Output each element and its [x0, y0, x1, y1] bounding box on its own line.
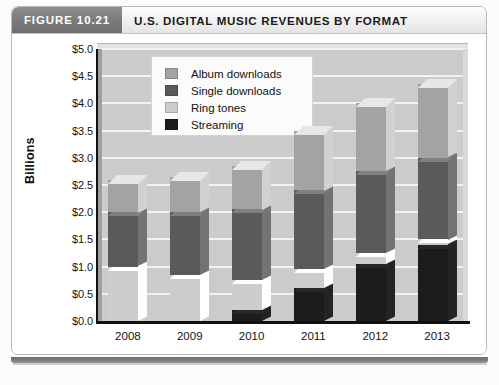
bar-segment-2012-streaming: [356, 264, 386, 321]
y-tick-label: $2.5: [47, 179, 93, 191]
panel-shadow-bar-light: [13, 363, 487, 365]
x-tick-label-2012: 2012: [362, 330, 388, 342]
bar-segment-front: [294, 288, 324, 321]
y-axis-title: Billions: [23, 137, 37, 184]
bar-segment-front: [170, 212, 200, 275]
figure-title: U.S. DIGITAL MUSIC REVENUES BY FORMAT: [134, 7, 408, 33]
bar-segment-2013-single-downloads: [418, 158, 448, 240]
bar-segment-front: [418, 84, 448, 157]
plot-top-cap-edge: [97, 43, 468, 44]
bar-segment-2008-single-downloads: [108, 212, 138, 266]
y-tick-label: $3.0: [47, 152, 93, 164]
gridline: [97, 184, 468, 186]
bar-segment-2009-single-downloads: [170, 212, 200, 275]
gridline: [97, 293, 468, 295]
figure-number-tab: FIGURE 10.21: [12, 7, 122, 33]
x-tick-label-2011: 2011: [301, 330, 326, 342]
y-tick-label: $0.5: [47, 288, 93, 300]
bar-segment-front: [108, 212, 138, 266]
bar-segment-front: [232, 209, 262, 280]
bar-segment-front: [294, 190, 324, 269]
y-axis-line: [96, 49, 98, 324]
bar-segment-2013-album-downloads: [418, 84, 448, 157]
figure-header: FIGURE 10.21 U.S. DIGITAL MUSIC REVENUES…: [12, 7, 487, 34]
bar-segment-side: [386, 167, 395, 253]
x-tick-label-2009: 2009: [177, 330, 203, 342]
y-tick-label: $1.0: [47, 261, 93, 273]
x-tick-label-2008: 2008: [115, 330, 141, 342]
bar-segment-2008-ring-tones: [108, 267, 138, 321]
y-tick-label: $2.0: [47, 206, 93, 218]
figure-panel: FIGURE 10.21 U.S. DIGITAL MUSIC REVENUES…: [11, 6, 487, 355]
bar-segment-side: [138, 208, 147, 267]
bar-segment-2010-ring-tones: [232, 280, 262, 310]
bar-segment-2009-ring-tones: [170, 275, 200, 321]
bar-segment-2011-single-downloads: [294, 190, 324, 269]
bar-segment-2012-single-downloads: [356, 171, 386, 253]
bar-segment-front: [294, 131, 324, 191]
bar-segment-2008-album-downloads: [108, 180, 138, 213]
bar-segment-side: [324, 126, 333, 190]
bar-segment-2011-streaming: [294, 288, 324, 321]
bar-segment-2012-album-downloads: [356, 103, 386, 171]
bar-segment-side: [262, 162, 271, 210]
x-tick-label-2010: 2010: [239, 330, 265, 342]
bar-segment-front: [108, 180, 138, 213]
bar-segment-front: [170, 275, 200, 321]
bar-segment-front: [170, 177, 200, 212]
y-tick-label: $4.5: [47, 70, 93, 82]
bar-group-2013: [418, 49, 448, 321]
bar-segment-2013-ring-tones: [418, 239, 448, 244]
bar-segment-2012-ring-tones: [356, 253, 386, 264]
bar-segment-side: [138, 262, 147, 321]
bar-segment-front: [356, 103, 386, 171]
bar-segment-side: [448, 80, 457, 158]
bar-segment-2010-album-downloads: [232, 166, 262, 210]
bar-segment-side: [448, 153, 457, 239]
bar-segment-2010-streaming: [232, 310, 262, 321]
bar-segment-front: [418, 158, 448, 240]
bar-segment-side: [324, 186, 333, 269]
bar-segment-2011-ring-tones: [294, 269, 324, 288]
bar-segment-front: [356, 171, 386, 253]
bar-segment-side: [448, 240, 457, 321]
bar-group-2008: [108, 49, 138, 321]
x-tick-label-2013: 2013: [424, 330, 450, 342]
bar-group-2009: [170, 49, 200, 321]
y-tick-label: $4.0: [47, 97, 93, 109]
bar-segment-side: [200, 208, 209, 275]
bar-segment-side: [386, 99, 395, 171]
bar-segment-2009-album-downloads: [170, 177, 200, 212]
bar-segment-2011-album-downloads: [294, 131, 324, 191]
plot-right-wall: [463, 49, 468, 321]
bar-segment-2010-single-downloads: [232, 209, 262, 280]
gridline: [97, 266, 468, 268]
bar-segment-front: [232, 280, 262, 310]
bar-segment-front: [108, 267, 138, 321]
gridline: [97, 48, 468, 50]
bar-segment-front: [356, 264, 386, 321]
bar-group-2012: [356, 49, 386, 321]
chart-body: Billions $0.0$0.5$1.0$1.5$2.0$2.5$3.0$3.…: [12, 34, 487, 355]
y-tick-label: $3.5: [47, 125, 93, 137]
bar-segment-side: [386, 260, 395, 321]
figure-screenshot: FIGURE 10.21 U.S. DIGITAL MUSIC REVENUES…: [0, 0, 499, 385]
bar-segment-front: [232, 166, 262, 210]
y-tick-label: $0.0: [47, 315, 93, 327]
y-axis-ticks: $0.0$0.5$1.0$1.5$2.0$2.5$3.0$3.5$4.0$4.5…: [38, 49, 93, 321]
bar-segment-front: [418, 245, 448, 321]
bar-group-2011: [294, 49, 324, 321]
bar-group-2010: [232, 49, 262, 321]
gridline: [97, 238, 468, 240]
y-tick-label: $1.5: [47, 233, 93, 245]
bar-segment-side: [200, 270, 209, 321]
bar-segment-side: [262, 205, 271, 280]
bar-segment-2013-streaming: [418, 245, 448, 321]
gridline: [97, 211, 468, 213]
x-axis-line: [97, 321, 470, 324]
gridline: [97, 157, 468, 159]
y-tick-label: $5.0: [47, 43, 93, 55]
